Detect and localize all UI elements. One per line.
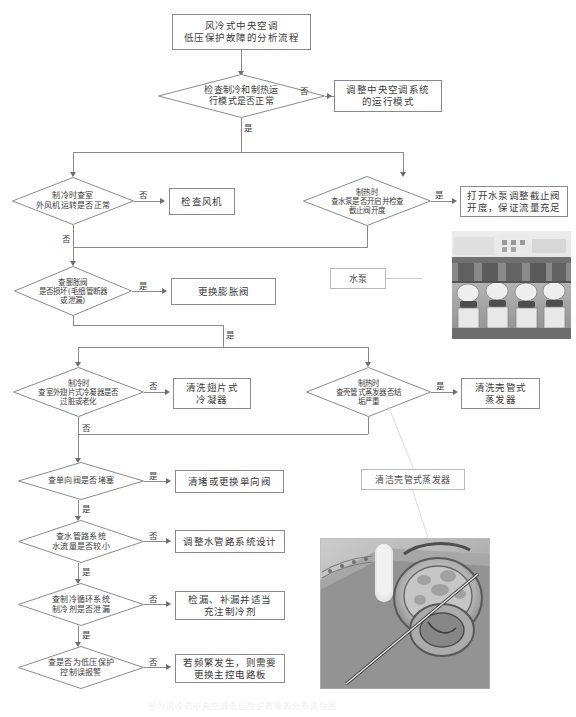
edge-d4-yes <box>132 291 165 292</box>
action-a1: 调整中央空调系统 的运行模式 <box>334 80 442 112</box>
branch-label-d9-yes: 否 <box>149 592 158 604</box>
decision-d5-label: 制冷时 查室外翅片式冷凝器是否 过脏或老化 <box>13 367 144 417</box>
decision-d4: 查膨胀阀 是否损坏(毛细管断器 或泄漏) <box>14 266 132 316</box>
action-a5: 清洗翅片式 冷凝器 <box>173 378 251 409</box>
decision-d1-label: 检查制冷和制热运 行模式是否正常 <box>158 74 325 118</box>
decision-d7: 查单向阀是否堵塞 <box>18 462 144 500</box>
merge-bar-row5 <box>78 434 368 435</box>
evaporator-photo <box>320 538 490 689</box>
branch-label-d8-no: 是 <box>82 565 91 577</box>
edge-d2-no <box>134 201 163 202</box>
decision-d9: 查制冷循环系统 制冷剂是否泄漏 <box>18 583 144 626</box>
merge-bar-row3 <box>73 247 368 248</box>
decision-d9-label: 查制冷循环系统 制冷剂是否泄漏 <box>18 583 144 626</box>
branch-label-d8-yes: 否 <box>149 529 158 541</box>
arrow-d5-to-a5 <box>165 389 170 395</box>
branch-label-d1-no: 否 <box>300 84 309 96</box>
arrow-d7-to-a7 <box>166 478 171 484</box>
action-a9: 检漏、补漏并适当 充注制冷剂 <box>175 591 285 620</box>
decision-d8-label: 查水管路系统 水流量是否较小 <box>18 520 144 563</box>
branch-label-d1-yes: 是 <box>244 121 253 133</box>
edge-d5-no-down <box>78 417 79 434</box>
connector-title-to-d1 <box>241 50 242 73</box>
decision-d6-label: 制热时 查壳管式蒸发器否结 垢严重 <box>306 367 431 417</box>
branch-label-d9-no: 是 <box>82 628 91 640</box>
pump-photo-image <box>452 231 571 339</box>
action-a8: 调整水管路系统设计 <box>175 530 285 553</box>
decision-d10: 查是否为低压保护 控制误报警 <box>18 646 144 689</box>
decision-d3: 制热时 查水泵是否开启并检查 截止阀开度 <box>303 176 431 226</box>
branch-label-d7-yes: 是 <box>149 469 158 481</box>
arrow-d4-to-a4 <box>162 288 167 294</box>
branch-label-d7-no: 是 <box>82 502 91 514</box>
evaporator-callout-label: 清洁壳管式蒸发器 <box>361 469 465 490</box>
pump-photo <box>452 231 571 339</box>
action-a10: 若频繁发生，则需要 更换主控电路板 <box>175 654 285 683</box>
branch-label-d5-no: 否 <box>82 421 91 433</box>
split-bar-row4 <box>78 347 368 348</box>
flowchart-page: 风冷式中央空调 低压保护故障的分析流程 检查制冷和制热运 行模式是否正常 <box>0 0 576 717</box>
split-right-row2 <box>403 152 404 174</box>
split-center-row2 <box>241 148 242 153</box>
edge-d1-yes-down <box>241 118 242 148</box>
decision-d8: 查水管路系统 水流量是否较小 <box>18 520 144 563</box>
merge-down-row5 <box>78 434 79 460</box>
arrow-d1-to-a1 <box>327 93 332 99</box>
edge-d3-yes-down <box>367 226 368 247</box>
action-a6: 清洗壳管式 蒸发器 <box>461 378 540 409</box>
split-bar-row2 <box>73 152 403 153</box>
flow-title-node: 风冷式中央空调 低压保护故障的分析流程 <box>172 14 311 50</box>
arrow-d6-to-a6 <box>453 389 458 395</box>
branch-label-d10-yes: 否 <box>149 655 158 667</box>
decision-d10-label: 查是否为低压保护 控制误报警 <box>18 646 144 689</box>
edge-d4-no-right <box>73 325 223 326</box>
split-left-row2 <box>73 152 74 174</box>
decision-d2: 制冷时查室 外风机运转是否正常 <box>12 177 134 225</box>
decision-d6: 制热时 查壳管式蒸发器否结 垢严重 <box>306 367 431 417</box>
pump-callout-leader <box>386 278 422 279</box>
branch-label-d2-no: 否 <box>139 188 148 200</box>
action-a4: 更换膨胀阀 <box>171 278 276 305</box>
arrow-d9-to-a9 <box>166 601 171 607</box>
arrow-d8-to-a8 <box>166 538 171 544</box>
branch-label-d6-yes: 是 <box>436 379 445 391</box>
decision-d5: 制冷时 查室外翅片式冷凝器是否 过脏或老化 <box>13 367 144 417</box>
branch-label-d5-yes: 否 <box>149 379 158 391</box>
branch-label-d4-yes: 是 <box>139 279 148 291</box>
action-a2: 检查风机 <box>169 188 235 215</box>
decision-d2-label: 制冷时查室 外风机运转是否正常 <box>12 177 134 225</box>
edge-d2-yes-down <box>73 225 74 247</box>
edge-d4-no-down <box>73 316 74 325</box>
decision-d7-label: 查单向阀是否堵塞 <box>18 462 144 500</box>
edge-d6-no-down <box>368 417 369 434</box>
action-a7: 清堵或更换单向阀 <box>175 470 284 493</box>
arrow-d3-to-a3 <box>452 198 457 204</box>
evaporator-photo-image <box>320 538 490 689</box>
decision-d1: 检查制冷和制热运 行模式是否正常 <box>158 74 325 118</box>
arrow-d10-to-a10 <box>166 664 171 670</box>
action-a3: 打开水泵调整截止阀 开度，保证流量充足 <box>460 186 568 217</box>
pump-callout-label: 水泵 <box>330 268 386 289</box>
branch-label-d3-no: 是 <box>435 188 444 200</box>
decision-d4-label: 查膨胀阀 是否损坏(毛细管断器 或泄漏) <box>14 266 132 316</box>
decision-d3-label: 制热时 查水泵是否开启并检查 截止阀开度 <box>303 176 431 226</box>
edge-d4-no-down2 <box>223 325 224 347</box>
branch-label-d2-yes: 否 <box>62 232 71 244</box>
arrow-d2-to-a2 <box>160 198 165 204</box>
figure-caption: 图为风冷式中央空调低压保护故障的分析流程图 <box>148 700 337 711</box>
branch-label-d4-no: 是 <box>226 328 235 340</box>
